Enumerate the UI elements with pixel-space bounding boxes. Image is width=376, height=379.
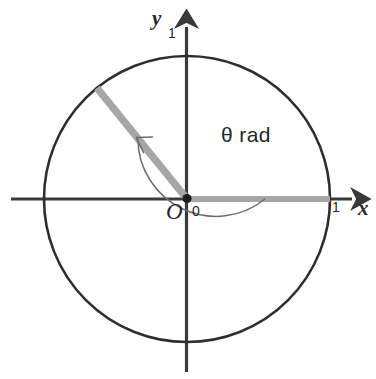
- y-axis-label: y: [152, 8, 161, 29]
- x-axis-tick-label-1: 1: [332, 200, 340, 214]
- y-axis-arrowhead: [176, 10, 197, 27]
- angle-label: θ rad: [221, 124, 271, 145]
- origin-point-dot: [182, 194, 191, 203]
- terminal-side-ray: [97, 88, 187, 199]
- y-axis-tick-label-1: 1: [168, 26, 176, 40]
- origin-zero-label: 0: [192, 204, 200, 218]
- diagram-canvas: [0, 0, 376, 379]
- origin-label: O: [166, 200, 183, 223]
- unit-circle-figure: y 1 x 1 O 0 θ rad: [0, 0, 376, 379]
- x-axis-label: x: [358, 198, 369, 219]
- angle-arc: [138, 138, 265, 216]
